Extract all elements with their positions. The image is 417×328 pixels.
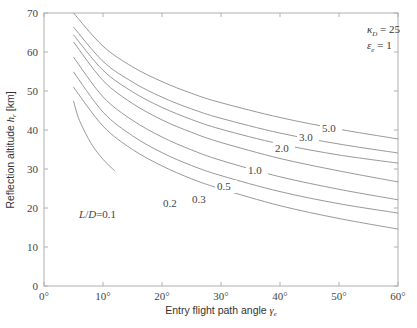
y-axis-title: Reflection altitude hr [km]	[4, 91, 18, 208]
y-tick-label: 50	[27, 85, 39, 97]
x-tick-label: 60°	[390, 290, 405, 302]
x-tick-label: 10°	[95, 290, 110, 302]
y-tick-label: 20	[27, 202, 39, 214]
epsilon-annotation: εe = 1	[367, 39, 392, 54]
reflection-altitude-chart: 0°10°20°30°40°50°60°010203040506070 L/D=…	[0, 0, 417, 328]
curve-ld-2.0	[74, 35, 399, 163]
y-tick-label: 30	[27, 163, 39, 175]
curve-label: 3.0	[299, 131, 313, 143]
curve-label: 2.0	[275, 142, 289, 154]
y-tick-label: 40	[27, 124, 39, 136]
curve-ld-1.0	[74, 42, 399, 182]
y-tick-label: 10	[27, 241, 39, 253]
curve-ld-0.1	[74, 101, 115, 171]
curve-label: 0.3	[192, 193, 206, 205]
axes: 0°10°20°30°40°50°60°010203040506070	[27, 7, 406, 302]
x-tick-label: 20°	[154, 290, 169, 302]
parameter-box: κD = 25 εe = 1	[367, 23, 401, 54]
curve-label: L/D=0.1	[78, 208, 116, 220]
y-tick-label: 70	[27, 7, 39, 19]
curve-label: 1.0	[248, 164, 262, 176]
curves	[74, 13, 399, 229]
curve-label: 0.5	[217, 180, 231, 192]
curve-ld-3.0	[74, 27, 399, 153]
x-axis-title: Entry flight path angle γe	[165, 304, 277, 318]
curve-labels: L/D=0.10.20.30.51.02.03.05.0	[77, 122, 342, 221]
y-tick-label: 60	[27, 46, 39, 58]
kappa-annotation: κD = 25	[367, 23, 401, 38]
curve-label: 5.0	[322, 122, 336, 134]
x-tick-label: 0°	[39, 290, 49, 302]
curve-label: 0.2	[163, 197, 177, 209]
y-tick-label: 0	[33, 280, 39, 292]
curve-ld-0.2	[74, 87, 399, 229]
x-tick-label: 40°	[272, 290, 287, 302]
plot-frame	[44, 13, 398, 286]
x-tick-label: 50°	[331, 290, 346, 302]
x-tick-label: 30°	[213, 290, 228, 302]
